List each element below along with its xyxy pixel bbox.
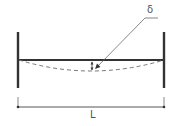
beam-deflection-diagram [0, 0, 174, 126]
dimension-left-tick-icon [17, 106, 20, 109]
deflection-label: δ [147, 5, 153, 15]
leader-line [95, 18, 158, 69]
dimension-right-tick-icon [163, 106, 166, 109]
deflection-arrow-icon [91, 62, 94, 71]
span-dimension [17, 97, 166, 108]
span-length-label: L [90, 110, 96, 120]
